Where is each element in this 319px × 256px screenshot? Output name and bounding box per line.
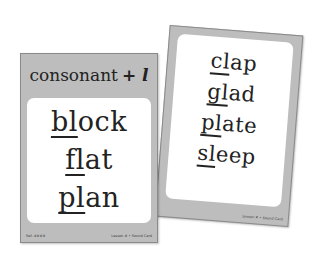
word-sleep: sleep bbox=[197, 143, 257, 169]
word-rest: eep bbox=[215, 142, 257, 169]
card-footer-label: Lesson # • Sound Card bbox=[242, 214, 283, 221]
card-header: consonant + l bbox=[21, 54, 157, 96]
flashcard-back: clap glad plate sleep Lesson # • Sound C… bbox=[155, 25, 304, 227]
word-plan: plan bbox=[58, 184, 119, 211]
flashcard-front: consonant + l block flat plan Ref. #### … bbox=[20, 53, 158, 243]
blend-underline: pl bbox=[200, 110, 223, 136]
card-title-suffix: + l bbox=[122, 65, 149, 85]
word-rest: an bbox=[85, 182, 120, 213]
word-plate: plate bbox=[200, 112, 258, 137]
word-flat: flat bbox=[65, 146, 113, 173]
card-footer-label: Lesson # • Sound Card bbox=[111, 234, 152, 238]
word-rest: ad bbox=[228, 81, 257, 107]
word-rest: at bbox=[85, 144, 113, 175]
blend-underline: sl bbox=[197, 141, 217, 166]
word-glad: glad bbox=[207, 81, 257, 106]
word-block: block bbox=[51, 108, 127, 135]
card-reference-label: Ref. #### bbox=[26, 234, 45, 238]
blend-underline: pl bbox=[58, 182, 85, 213]
card-title: consonant bbox=[29, 65, 118, 85]
word-clap: clap bbox=[210, 50, 258, 75]
word-rest: ate bbox=[221, 112, 258, 139]
word-rest: ock bbox=[78, 106, 127, 137]
word-list-panel: block flat plan bbox=[27, 98, 151, 223]
blend-underline: bl bbox=[51, 106, 78, 137]
blend-underline: cl bbox=[210, 48, 231, 73]
blend-underline: fl bbox=[65, 144, 85, 175]
word-list-panel: clap glad plate sleep bbox=[165, 34, 294, 208]
word-rest: ap bbox=[229, 50, 258, 76]
blend-underline: gl bbox=[207, 79, 230, 105]
